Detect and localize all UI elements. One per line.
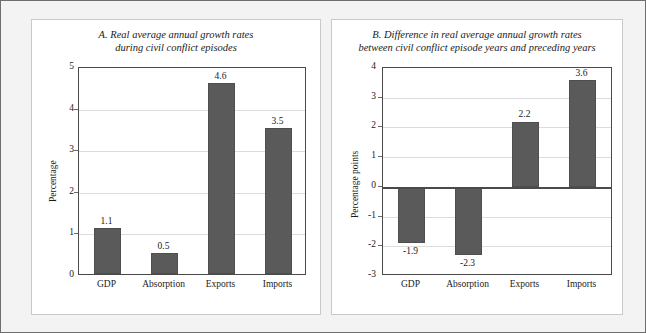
panel-b-ytick-0: 0 [354,181,376,191]
panel-b-plot-area [382,67,612,275]
panel-b-datalabel-gdp: -1.9 [382,246,439,256]
panel-b-bar-absorption [455,187,482,255]
panel-a-xtick-exports: Exports [192,279,249,289]
panel-b-xtick-imports: Imports [553,279,610,289]
panel-a-ytick-3: 3 [52,145,74,155]
panel-b-ytick-1: 1 [354,151,376,161]
panel-b-xtick-gdp: GDP [382,279,439,289]
panel-b-title: B. Difference in real average annual gro… [332,28,622,54]
panel-a-gridline-4 [79,110,305,111]
panel-b-ytick-m2: -2 [354,240,376,250]
panel-b-ytick-m1: -1 [354,211,376,221]
panel-b-xtick-absorption: Absorption [439,279,496,289]
panel-a-ytick-0: 0 [52,270,74,280]
panel-a-datalabel-absorption: 0.5 [135,241,192,251]
panel-b-datalabel-imports: 3.6 [553,68,610,78]
panel-b-title-line2: between civil conflict episode years and… [336,41,618,54]
panel-a-datalabel-gdp: 1.1 [78,216,135,226]
panel-a-title-line1: A. Real average annual growth rates [36,28,316,41]
chart-panel-b: B. Difference in real average annual gro… [331,19,623,315]
panel-a-xtick-imports: Imports [249,279,306,289]
panel-b-ytick-4: 4 [354,62,376,72]
panel-b-ytick-2: 2 [354,121,376,131]
panel-a-xtick-gdp: GDP [78,279,135,289]
panel-a-title-line2: during civil conflict episodes [36,41,316,54]
panel-b-bar-exports [512,122,539,187]
panel-b-bar-imports [569,80,596,187]
panel-a-ytick-1: 1 [52,228,74,238]
panel-b-datalabel-exports: 2.2 [496,109,553,119]
panel-b-zero-line [383,187,611,189]
figure-inner: A. Real average annual growth rates duri… [9,9,637,324]
panel-b-bar-gdp [398,187,425,244]
chart-panel-a: A. Real average annual growth rates duri… [31,19,321,315]
panel-a-xtick-absorption: Absorption [135,279,192,289]
panel-b-title-line1: B. Difference in real average annual gro… [336,28,618,41]
panel-a-title: A. Real average annual growth rates duri… [32,28,320,54]
panel-a-datalabel-imports: 3.5 [249,116,306,126]
panel-a-ytick-5: 5 [52,62,74,72]
panel-a-plot-area [78,67,306,275]
panel-a-bar-imports [265,128,292,274]
panel-a-bar-exports [208,83,235,274]
panel-a-bar-absorption [151,253,178,274]
panel-a-datalabel-exports: 4.6 [192,71,249,81]
panel-b-ytick-m3: -3 [354,270,376,280]
figure-frame: A. Real average annual growth rates duri… [0,0,646,333]
panel-b-ytick-3: 3 [354,92,376,102]
panel-a-bar-gdp [94,228,121,274]
panel-b-xtick-exports: Exports [496,279,553,289]
panel-b-datalabel-absorption: -2.3 [439,258,496,268]
panel-a-ytick-2: 2 [52,187,74,197]
panel-a-ytick-4: 4 [52,104,74,114]
